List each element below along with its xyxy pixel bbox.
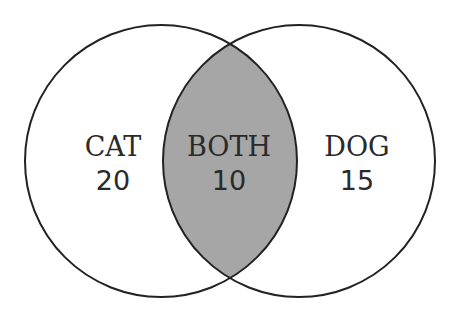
both-label: BOTH xyxy=(187,131,271,162)
cat-label: CAT xyxy=(85,131,142,162)
both-value: 10 xyxy=(212,165,246,196)
cat-value: 20 xyxy=(96,165,130,196)
dog-value: 15 xyxy=(340,165,374,196)
dog-label: DOG xyxy=(324,131,389,162)
venn-diagram: CAT 20 BOTH 10 DOG 15 xyxy=(0,0,458,311)
